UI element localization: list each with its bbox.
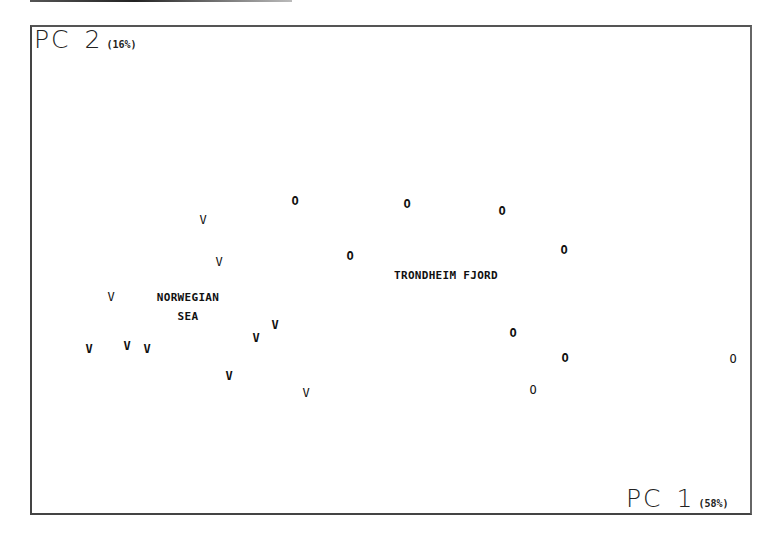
norwegian-sea-point: V — [199, 214, 206, 226]
trondheim-fjord-point: O — [561, 352, 568, 364]
y-axis-name: PC — [34, 25, 71, 54]
norwegian-label-line1: NORWEGIAN — [157, 288, 219, 307]
trondheim-fjord-point: O — [403, 198, 410, 210]
norwegian-sea-label: NORWEGIAN SEA — [157, 288, 219, 326]
top-edge-bar — [30, 0, 292, 2]
trondheim-fjord-point: O — [509, 327, 516, 339]
norwegian-sea-point: V — [271, 319, 278, 331]
y-axis-variance: (16%) — [106, 39, 136, 50]
norwegian-label-line2: SEA — [157, 307, 219, 326]
norwegian-sea-point: V — [143, 343, 150, 355]
y-axis-title: PC2(16%) — [34, 25, 137, 54]
norwegian-sea-point: V — [123, 340, 130, 352]
trondheim-fjord-point: O — [560, 244, 567, 256]
norwegian-sea-point: V — [225, 370, 232, 382]
norwegian-sea-point: V — [252, 332, 259, 344]
trondheim-fjord-point: O — [729, 353, 736, 365]
x-axis-number: 1 — [677, 484, 695, 513]
y-axis-number: 2 — [85, 25, 103, 54]
trondheim-fjord-label: TRONDHEIM FJORD — [394, 266, 498, 285]
x-axis-name: PC — [626, 484, 663, 513]
x-axis-variance: (58%) — [698, 498, 728, 509]
plot-frame — [30, 25, 752, 515]
trondheim-fjord-point: O — [346, 250, 353, 262]
trondheim-fjord-point: O — [291, 195, 298, 207]
x-axis-title: PC1(58%) — [626, 484, 729, 513]
norwegian-sea-point: V — [215, 256, 222, 268]
norwegian-sea-point: V — [302, 387, 309, 399]
trondheim-fjord-point: O — [498, 205, 505, 217]
trondheim-fjord-point: O — [529, 384, 536, 396]
norwegian-sea-point: V — [107, 291, 114, 303]
norwegian-sea-point: V — [85, 343, 92, 355]
